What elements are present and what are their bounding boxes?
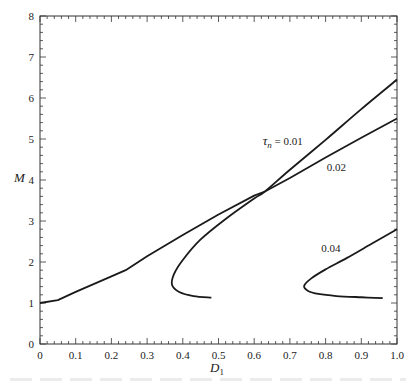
curve-label-2: 0.02 [327, 161, 346, 173]
x-tick-label: 0.2 [105, 349, 119, 361]
y-axis: 012345678 [29, 10, 398, 350]
x-axis-label-main: D [209, 360, 220, 375]
x-tick-label: 0.6 [247, 349, 261, 361]
x-axis-label: D1 [209, 360, 224, 377]
curve-labels: τn = 0.010.020.04 [263, 133, 346, 254]
x-tick-label: 0.4 [176, 349, 190, 361]
plot-frame [40, 16, 397, 344]
curves [40, 80, 397, 303]
curve-label-1: τn = 0.01 [263, 133, 303, 150]
plot-border [40, 16, 397, 344]
curve-series-2 [40, 119, 397, 304]
y-tick-label: 5 [29, 133, 35, 145]
x-tick-label: 0 [37, 349, 43, 361]
x-tick-label: 0.8 [319, 349, 333, 361]
x-axis-label-sub: 1 [219, 367, 224, 377]
curve-series-3 [304, 229, 397, 298]
y-tick-label: 8 [29, 10, 35, 22]
chart: 00.10.20.30.40.50.60.70.80.91.0 01234567… [0, 0, 416, 386]
curve-series-1 [172, 80, 397, 298]
x-tick-label: 0.1 [69, 349, 83, 361]
x-tick-label: 1.0 [390, 349, 404, 361]
x-axis: 00.10.20.30.40.50.60.70.80.91.0 [37, 16, 404, 361]
curve-label-3: 0.04 [321, 242, 341, 254]
x-tick-label: 0.3 [140, 349, 154, 361]
caption-remnant [10, 378, 406, 381]
y-tick-label: 6 [29, 92, 35, 104]
y-tick-label: 2 [29, 256, 35, 268]
x-tick-label: 0.7 [283, 349, 297, 361]
x-tick-label: 0.9 [354, 349, 368, 361]
y-tick-label: 0 [29, 338, 35, 350]
y-tick-label: 3 [29, 215, 35, 227]
y-axis-label: M [13, 170, 26, 185]
y-tick-label: 1 [29, 297, 35, 309]
y-tick-label: 7 [29, 51, 35, 63]
y-tick-label: 4 [29, 174, 35, 186]
